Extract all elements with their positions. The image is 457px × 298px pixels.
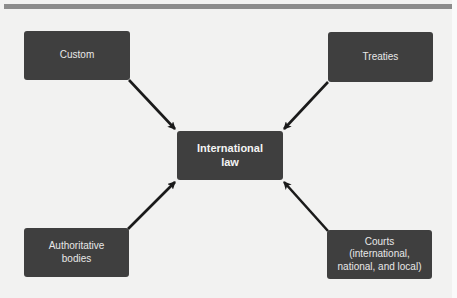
node-international-law-label: International law xyxy=(197,142,263,169)
node-custom: Custom xyxy=(24,31,130,80)
node-courts-label: Courts (international, national, and loc… xyxy=(338,236,422,274)
node-custom-label: Custom xyxy=(60,49,94,62)
node-courts: Courts (international, national, and loc… xyxy=(327,230,432,279)
node-treaties-label: Treaties xyxy=(363,51,399,64)
node-authoritative-bodies-label: Authoritative bodies xyxy=(49,240,105,265)
arrow-courts-to-law xyxy=(284,182,328,231)
arrow-authoritative-to-law xyxy=(128,182,175,229)
node-authoritative-bodies: Authoritative bodies xyxy=(24,228,129,277)
arrow-custom-to-law xyxy=(129,80,175,129)
arrow-treaties-to-law xyxy=(284,82,328,129)
node-treaties: Treaties xyxy=(328,32,433,82)
node-international-law: International law xyxy=(177,131,283,180)
